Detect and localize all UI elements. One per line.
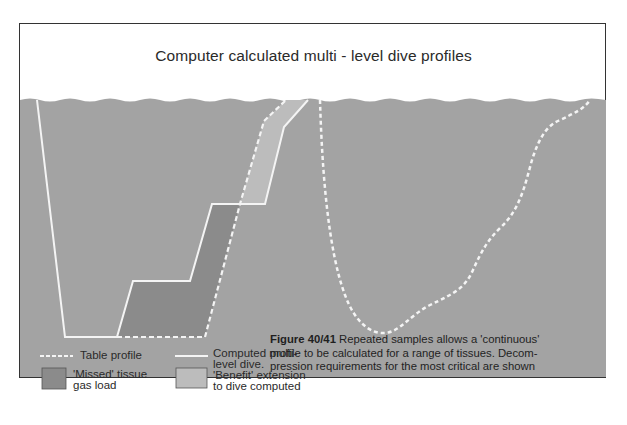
legend-table-profile-label: Table profile	[80, 350, 142, 361]
legend-missed-tissue-symbol	[42, 368, 66, 389]
caption-line-1: Repeated samples allows a 'continuous'	[336, 333, 539, 345]
figure-caption: Figure 40/41 Repeated samples allows a '…	[270, 333, 600, 374]
legend-missed-tissue-label: 'Missed' tissue gas load	[73, 369, 147, 391]
legend-benefit-extension-line2: to dive computed	[213, 381, 306, 392]
figure-label: Figure 40/41	[270, 333, 336, 345]
legend-missed-tissue-line2: gas load	[73, 380, 147, 391]
legend-benefit-extension-symbol	[176, 368, 207, 388]
caption-line-3: pression requirements for the most criti…	[270, 360, 600, 374]
caption-line-2: profile to be calculated for a range of …	[270, 347, 600, 361]
diagram-title: Computer calculated multi - level dive p…	[0, 47, 627, 65]
